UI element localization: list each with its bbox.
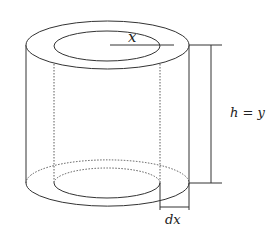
thickness-label: dx — [165, 212, 181, 227]
outer-bottom-ellipse-back — [26, 160, 189, 183]
radius-label: x — [128, 28, 137, 46]
outer-bottom-ellipse-front — [26, 183, 189, 206]
cylindrical-shell-diagram: x h = y dx — [0, 0, 279, 245]
height-label: h = y — [230, 105, 266, 120]
inner-bottom-ellipse-back — [54, 168, 160, 183]
inner-bottom-ellipse-front — [54, 183, 160, 198]
